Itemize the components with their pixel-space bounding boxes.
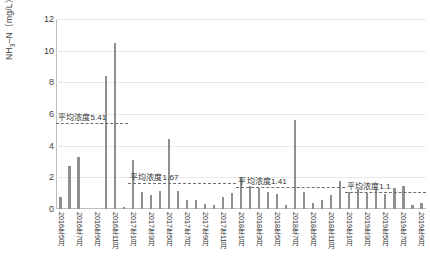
bar — [132, 160, 134, 209]
bar — [402, 186, 404, 209]
y-axis-title-text: NH — [4, 47, 14, 60]
bar — [258, 188, 260, 209]
bar — [303, 192, 305, 209]
y-axis-title-sub: 3 — [9, 43, 16, 47]
mean-line — [345, 192, 426, 193]
x-axis-tick-label: 2018年7月 — [290, 212, 300, 246]
bar — [150, 195, 152, 209]
bar — [159, 191, 161, 209]
gridline — [56, 146, 426, 147]
x-axis-tick-label: 2017年11月 — [218, 212, 228, 249]
x-axis-tick-label: 2019年3月 — [362, 212, 372, 246]
chart-figure: NH3–N（mg/L） 024681012 平均浓度5.41平均浓度1.67平均… — [0, 0, 430, 279]
bar — [330, 195, 332, 209]
mean-line — [128, 183, 236, 184]
bar — [77, 157, 79, 209]
bar — [186, 200, 188, 209]
bar — [105, 76, 107, 209]
gridline — [56, 51, 426, 52]
x-axis-tick-label: 2016年5月 — [56, 212, 66, 246]
mean-label: 平均浓度1.1 — [347, 180, 391, 191]
mean-line — [56, 123, 128, 124]
bar — [222, 197, 224, 209]
y-axis-tick-label: 10 — [18, 46, 54, 56]
x-axis-tick-label: 2017年5月 — [164, 212, 174, 246]
x-axis-tick-label: 2018年3月 — [254, 212, 264, 246]
bar — [267, 192, 269, 209]
bar — [285, 205, 287, 209]
x-axis-tick-label: 2019年5月 — [380, 212, 390, 246]
y-axis-tick-label: 2 — [18, 172, 54, 182]
bar — [276, 194, 278, 209]
x-axis-tick-label: 2017年7月 — [182, 212, 192, 246]
bar — [249, 186, 251, 209]
gridline — [56, 114, 426, 115]
bar — [384, 194, 386, 209]
bar — [348, 192, 350, 209]
bar — [114, 43, 116, 209]
x-axis-tick-label: 2017年1月 — [128, 212, 138, 246]
y-axis-tick-label: 4 — [18, 141, 54, 151]
bar — [177, 191, 179, 209]
bar — [68, 166, 70, 209]
x-axis-tick-label: 2019年9月 — [416, 212, 426, 246]
y-axis-tick-label: 12 — [18, 14, 54, 24]
bar — [213, 205, 215, 209]
x-axis-tick-label: 2016年11月 — [110, 212, 120, 249]
gridline — [56, 19, 426, 20]
y-axis-tick-label: 8 — [18, 77, 54, 87]
bar — [231, 193, 233, 209]
x-axis-tick-label: 2016年7月 — [74, 212, 84, 246]
x-axis-tick-label: 2019年7月 — [398, 212, 408, 246]
bar — [204, 204, 206, 209]
x-axis-tick-label: 2018年5月 — [272, 212, 282, 246]
x-axis-tick-label: 2016年9月 — [92, 212, 102, 246]
bar — [59, 197, 61, 209]
mean-label: 平均浓度1.67 — [130, 171, 178, 182]
bar — [339, 181, 341, 210]
y-axis-title: NH3–N（mg/L） — [2, 0, 16, 60]
x-axis-tick-label: 2017年3月 — [146, 212, 156, 246]
bar — [411, 205, 413, 209]
y-axis-tick-label: 6 — [18, 109, 54, 119]
y-axis-title-tail: –N（mg/L） — [4, 0, 14, 43]
mean-line — [236, 187, 344, 188]
x-axis-tick-label: 2018年11月 — [326, 212, 336, 249]
y-axis-tick-label: 0 — [18, 204, 54, 214]
bar — [420, 203, 422, 209]
bar — [123, 207, 125, 209]
x-axis-ticks: 2016年5月2016年7月2016年9月2016年11月2017年1月2017… — [56, 212, 426, 278]
bar — [195, 200, 197, 210]
bar — [321, 200, 323, 209]
bar — [294, 120, 296, 209]
plot-area: 024681012 平均浓度5.41平均浓度1.67平均浓度1.41平均浓度1.… — [56, 19, 426, 209]
mean-label: 平均浓度5.41 — [58, 111, 106, 122]
bar — [141, 192, 143, 209]
bar — [312, 203, 314, 209]
x-axis-tick-label: 2018年1月 — [236, 212, 246, 246]
x-axis-tick-label: 2018年9月 — [308, 212, 318, 246]
gridline — [56, 82, 426, 83]
x-axis-tick-label: 2019年1月 — [344, 212, 354, 246]
mean-label: 平均浓度1.41 — [238, 175, 286, 186]
x-axis-tick-label: 2017年9月 — [200, 212, 210, 246]
bar — [366, 193, 368, 209]
